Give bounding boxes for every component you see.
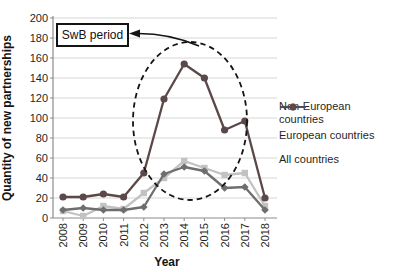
legend-label: European countries (279, 129, 375, 142)
y-tick-label: 160 (30, 52, 48, 64)
data-point (80, 213, 86, 219)
data-point (289, 103, 296, 110)
data-point (79, 204, 87, 212)
data-point (59, 193, 66, 200)
x-tick-label: 2015 (198, 223, 210, 247)
y-tick-label: 140 (30, 72, 48, 84)
y-tick-label: 60 (36, 152, 48, 164)
data-point (261, 194, 268, 201)
annotation-label: SwB period (62, 28, 123, 42)
x-tick-label: 2017 (239, 223, 251, 247)
legend-label: All countries (279, 153, 375, 166)
y-axis-title: Quantity of new partnerships (0, 35, 14, 201)
y-tick-label: 180 (30, 32, 48, 44)
x-tick-label: 2016 (219, 223, 231, 247)
legend-item: All countries (279, 153, 407, 166)
annotation-arrow (138, 34, 199, 47)
y-tick-label: 0 (42, 212, 48, 224)
x-tick-label: 2010 (97, 223, 109, 247)
data-point (242, 170, 248, 176)
data-point (120, 193, 127, 200)
x-tick-label: 2011 (118, 223, 130, 247)
data-point (201, 74, 208, 81)
swb-period-ellipse (133, 42, 247, 200)
y-tick-label: 40 (36, 172, 48, 184)
y-tick-label: 200 (30, 12, 48, 24)
x-tick-label: 2009 (77, 223, 89, 247)
data-point (181, 60, 188, 67)
data-point (80, 193, 87, 200)
x-tick-label: 2013 (158, 223, 170, 247)
legend-circle-icon (279, 101, 307, 113)
x-tick-label: 2018 (259, 223, 271, 247)
x-tick-label: 2014 (178, 223, 190, 247)
data-point (221, 126, 228, 133)
y-tick-label: 120 (30, 92, 48, 104)
legend: Non-European countriesEuropean countries… (279, 100, 407, 169)
series-1 (59, 163, 269, 214)
y-tick-label: 20 (36, 192, 48, 204)
data-point (160, 95, 167, 102)
data-point (100, 190, 107, 197)
x-axis-title: Year (154, 255, 180, 269)
legend-item: European countries (279, 129, 407, 142)
y-tick-label: 80 (36, 132, 48, 144)
x-tick-label: 2012 (138, 223, 150, 247)
y-tick-label: 100 (30, 112, 48, 124)
x-tick-label: 2008 (57, 223, 69, 247)
data-point (141, 190, 147, 196)
data-point (221, 172, 227, 178)
partnerships-line-chart: 0204060801001201401601802002008200920102… (0, 0, 408, 272)
annotation-arrowhead-icon (129, 30, 140, 38)
data-series (59, 60, 269, 219)
